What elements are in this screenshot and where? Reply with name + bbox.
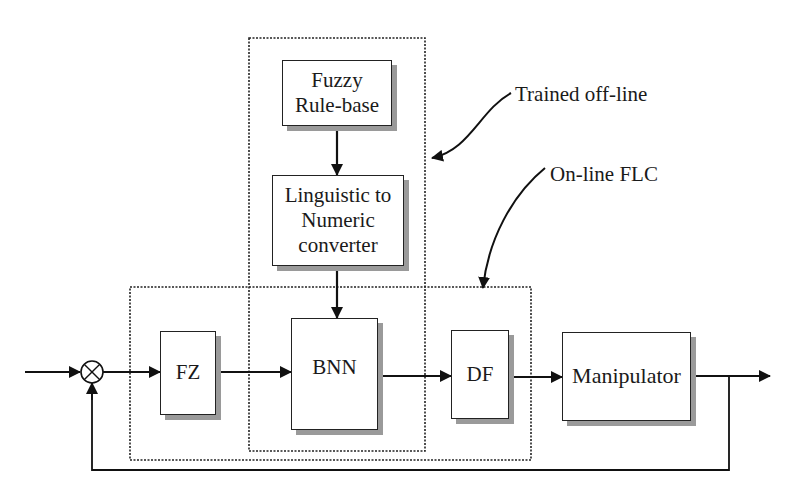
linguistic-converter-label-line1: Linguistic to bbox=[285, 183, 392, 208]
online-flc-pointer-arrow bbox=[483, 168, 545, 288]
trained-offline-annotation: Trained off-line bbox=[515, 82, 647, 107]
df-block: DF bbox=[451, 330, 509, 419]
df-label: DF bbox=[467, 362, 494, 387]
fuzzy-rule-base-label-line1: Fuzzy bbox=[311, 68, 362, 93]
summing-junction-icon bbox=[81, 361, 103, 383]
linguistic-converter-label-line3: converter bbox=[298, 233, 377, 258]
fz-label: FZ bbox=[176, 360, 201, 385]
linguistic-converter-block: Linguistic to Numeric converter bbox=[272, 175, 404, 266]
manipulator-block: Manipulator bbox=[562, 332, 691, 421]
online-flc-annotation: On-line FLC bbox=[550, 162, 658, 187]
fz-block: FZ bbox=[160, 331, 216, 415]
bnn-label: BNN bbox=[312, 355, 356, 380]
fuzzy-rule-base-label-line2: Rule-base bbox=[295, 93, 379, 118]
bnn-block: BNN bbox=[291, 318, 378, 430]
trained-offline-pointer-arrow bbox=[432, 93, 511, 158]
fuzzy-rule-base-block: Fuzzy Rule-base bbox=[282, 60, 392, 126]
manipulator-label: Manipulator bbox=[572, 363, 681, 389]
linguistic-converter-label-line2: Numeric bbox=[301, 208, 374, 233]
